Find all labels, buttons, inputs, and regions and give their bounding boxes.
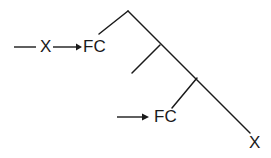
bottom-arrow bbox=[117, 113, 149, 120]
label-fc-bottom: FC bbox=[154, 108, 177, 125]
top-arrow-head bbox=[76, 43, 82, 50]
left-branch-line bbox=[99, 11, 128, 34]
bottom-arrow-head bbox=[142, 113, 149, 120]
branch-one-line bbox=[132, 45, 160, 73]
diagram-canvas: FC --> FC --> X FC FC X bbox=[0, 0, 271, 158]
label-fc-top: FC bbox=[83, 38, 106, 55]
branch-diagram: FC --> FC --> bbox=[0, 0, 271, 158]
top-arrow bbox=[53, 43, 82, 50]
label-x-left: X bbox=[40, 38, 51, 55]
main-diagonal-line bbox=[128, 11, 250, 133]
branch-two-line bbox=[172, 78, 197, 108]
label-x-bottom: X bbox=[249, 134, 260, 151]
